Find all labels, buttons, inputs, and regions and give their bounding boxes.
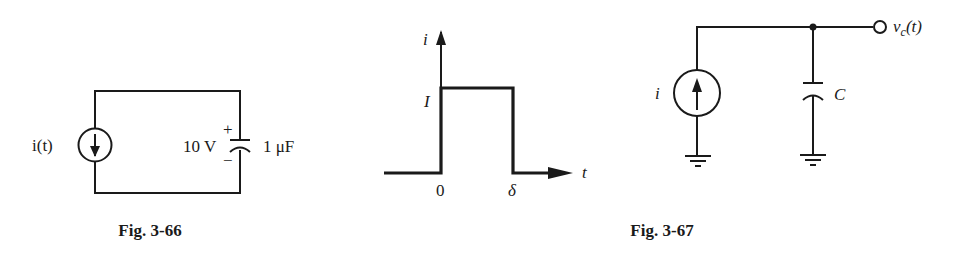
start-label: 0 [436,181,445,200]
top-wire [95,91,240,140]
ground-icon [800,155,826,165]
y-axis-arrow-icon [436,30,446,45]
bottom-wire [95,150,240,193]
circuit-fig-3-67: i C vc(t) [655,17,922,166]
current-source-up-icon [674,70,720,116]
capacitor-label: C [834,85,846,104]
plus-sign: + [223,120,233,139]
output-terminal [874,21,886,33]
minus-sign: − [223,151,233,170]
x-axis-arrow-icon [548,167,573,179]
level-label: I [423,92,431,111]
source-label: i [655,84,660,103]
y-axis-label: i [423,30,428,49]
current-source-down-icon [79,129,112,162]
top-wire [697,27,873,70]
circuit-fig-3-66: i(t) 10 V + − 1 μF [32,91,294,193]
end-label: δ [508,181,517,200]
figure-canvas: i(t) 10 V + − 1 μF Fig. 3-66 i I 0 δ t [0,0,977,253]
pulse-trace [384,88,560,173]
caption-fig-3-67: Fig. 3-67 [630,221,694,240]
ground-icon [685,156,711,166]
pulse-waveform: i I 0 δ t [384,30,588,200]
output-label: vc(t) [893,17,922,39]
capacitor-voltage-label: 10 V [183,137,217,156]
capacitance-label: 1 μF [263,137,294,156]
x-axis-label: t [582,163,588,182]
caption-fig-3-66: Fig. 3-66 [118,221,181,240]
source-label: i(t) [32,136,53,155]
